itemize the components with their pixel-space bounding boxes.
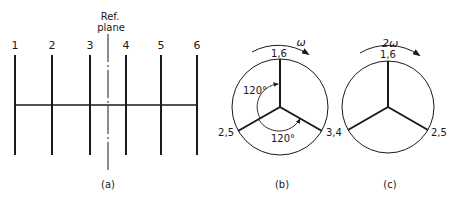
panel-c-caption: (c) (383, 179, 396, 190)
spoke-left-b (238, 107, 280, 131)
panel-b-caption: (b) (275, 179, 289, 190)
spoke-label-right-c: 2,5 (431, 127, 447, 138)
panel-a-caption: (a) (101, 179, 115, 190)
spoke-label-top-b: 1,6 (271, 48, 287, 59)
crank-label-1: 1 (12, 39, 19, 52)
ref-plane-label-line1: Ref. (101, 11, 120, 22)
spoke-left-c (348, 107, 388, 130)
panel-b-phase-diagram: ω 120° 120° 1,6 2,5 3,4 (b) (218, 36, 342, 190)
crank-label-2: 2 (49, 39, 56, 52)
panel-c-phase-diagram: 2ω 1,6 2,5 (c) (342, 37, 447, 190)
spoke-label-left-b: 2,5 (218, 127, 234, 138)
angle-label-1: 120° (243, 85, 267, 96)
spoke-label-right-b: 3,4 (326, 127, 342, 138)
spoke-right-b (280, 107, 322, 131)
spoke-right-c (388, 107, 428, 130)
crankshaft-figure: 1 2 3 4 5 6 Ref. plane (a) ω 120° 120° 1… (0, 0, 457, 199)
spoke-label-top-c: 1,6 (380, 49, 396, 60)
crank-label-5: 5 (158, 39, 165, 52)
panel-a-crank-layout: 1 2 3 4 5 6 Ref. plane (a) (12, 11, 201, 190)
angle-label-2: 120° (271, 133, 295, 144)
angle-arc-2 (259, 119, 300, 131)
crank-label-6: 6 (194, 39, 201, 52)
omega-label-b: ω (296, 36, 305, 49)
crank-label-3: 3 (87, 39, 94, 52)
crank-label-4: 4 (123, 39, 130, 52)
ref-plane-label-line2: plane (97, 22, 125, 33)
